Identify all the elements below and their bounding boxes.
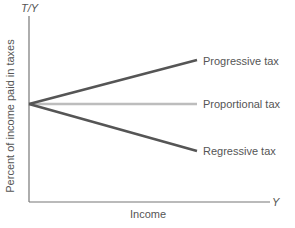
regressive-tax-line (29, 104, 197, 151)
progressive-tax-label: Progressive tax (203, 55, 279, 67)
progressive-tax-line (29, 60, 197, 104)
x-axis-symbol: Y (272, 196, 280, 208)
regressive-tax-label: Regressive tax (203, 145, 276, 157)
proportional-tax-label: Proportional tax (203, 98, 281, 110)
y-axis-label: Percent of income paid in taxes (4, 39, 16, 193)
x-axis-label: Income (130, 208, 166, 220)
tax-chart: T/Y Y Income Percent of income paid in t… (0, 0, 295, 228)
y-axis-symbol: T/Y (21, 2, 39, 14)
